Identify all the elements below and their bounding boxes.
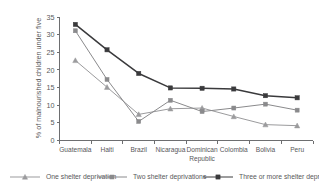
- series-line: [75, 24, 297, 97]
- x-tick-label: Bolivia: [256, 146, 276, 153]
- y-axis-ticks: 05101520253035: [47, 13, 60, 146]
- data-point: [200, 86, 204, 90]
- y-tick-label: 5: [51, 118, 55, 127]
- data-point: [295, 108, 299, 112]
- x-tick-label: Haiti: [100, 146, 114, 153]
- chart-container: % of malnourished children under five 05…: [0, 0, 319, 194]
- y-tick-label: 10: [47, 101, 55, 110]
- y-tick-label: 20: [47, 66, 55, 75]
- y-tick-label: 35: [47, 13, 55, 22]
- series-2: [73, 29, 299, 124]
- data-point: [168, 86, 172, 90]
- data-point: [137, 119, 141, 123]
- data-point: [200, 110, 204, 114]
- data-point: [73, 22, 77, 26]
- legend-item-3[interactable]: Three or more shelter deprivations: [203, 173, 319, 181]
- legend-marker: [216, 175, 220, 179]
- data-point: [137, 71, 141, 75]
- y-tick-label: 0: [51, 136, 55, 145]
- data-point: [73, 58, 78, 63]
- series-line: [75, 60, 297, 125]
- y-tick-label: 25: [47, 48, 55, 57]
- x-tick-label: Colombia: [220, 146, 248, 153]
- x-axis-labels: GuatemalaHaitiBrazilNicaraguaDominicanRe…: [59, 146, 304, 163]
- x-tick-label: Republic: [189, 155, 215, 163]
- chart-legend: One shelter deprivationTwo shelter depri…: [10, 173, 319, 181]
- data-point: [263, 94, 267, 98]
- data-point: [232, 87, 236, 91]
- legend-label: Three or more shelter deprivations: [239, 173, 319, 181]
- x-tick-label: Peru: [290, 146, 304, 153]
- x-tick-label: Brazil: [130, 146, 147, 153]
- data-point: [263, 102, 267, 106]
- y-tick-label: 30: [47, 30, 55, 39]
- y-axis-label: % of malnourished children under five: [34, 18, 43, 138]
- data-point: [105, 77, 109, 81]
- line-chart: % of malnourished children under five 05…: [0, 0, 319, 194]
- data-point: [73, 29, 77, 33]
- data-point: [232, 106, 236, 110]
- data-point: [168, 98, 172, 102]
- data-point: [105, 48, 109, 52]
- x-tick-label: Nicaragua: [155, 146, 185, 154]
- series-line: [75, 31, 297, 122]
- y-tick-label: 15: [47, 83, 55, 92]
- x-tick-label: Dominican: [187, 146, 218, 153]
- legend-marker: [110, 175, 114, 179]
- x-tick-label: Guatemala: [59, 146, 92, 153]
- data-series-group: [73, 22, 300, 128]
- legend-label: Two shelter deprivations: [133, 173, 207, 181]
- data-point: [295, 96, 299, 100]
- series-1: [73, 58, 300, 128]
